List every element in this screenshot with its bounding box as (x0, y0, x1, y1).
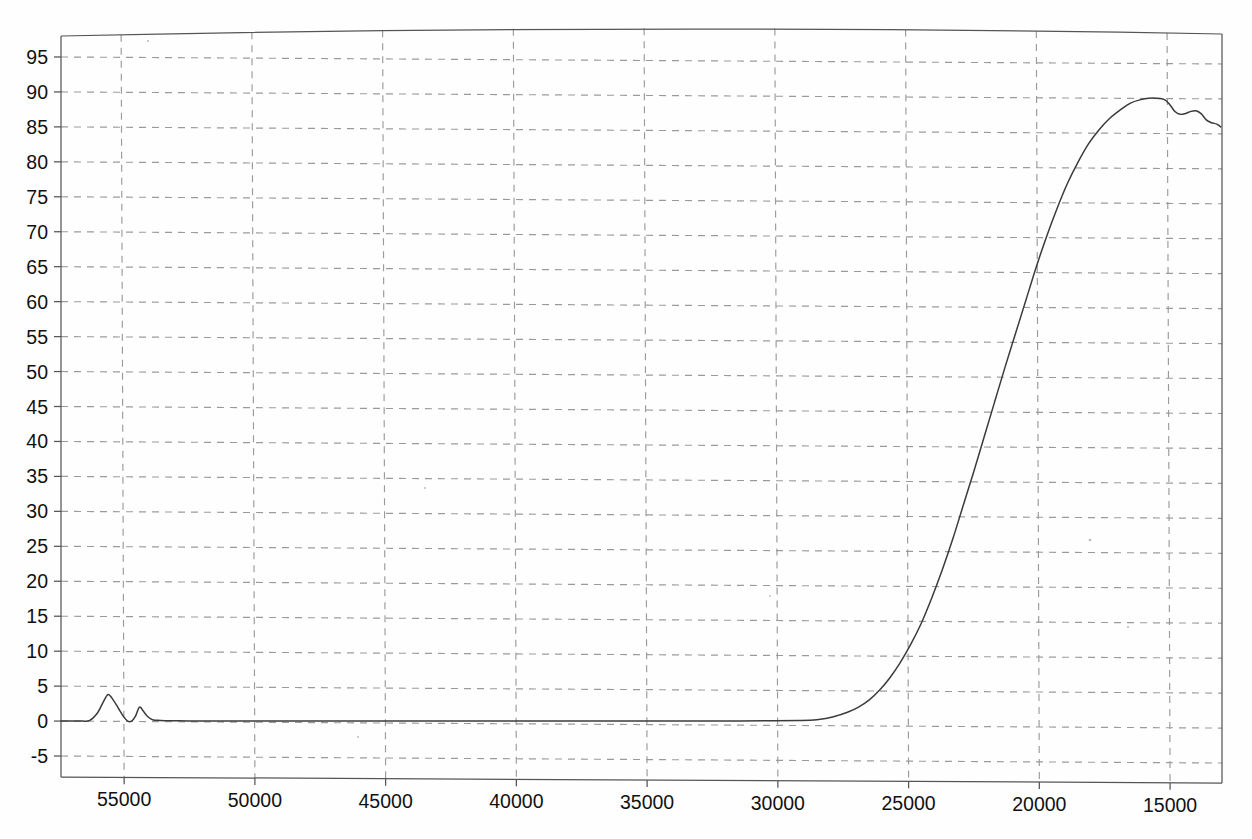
y-tick-label: 85 (26, 116, 48, 138)
x-tick-label: 25000 (881, 792, 935, 814)
y-tick-label: 30 (26, 500, 48, 522)
y-tick-label: 15 (26, 605, 48, 627)
y-tick-label: -5 (31, 745, 48, 767)
scan-speck (357, 736, 359, 738)
x-tick-label: 45000 (359, 790, 413, 812)
scan-speck (147, 40, 149, 42)
y-tick-label: 10 (26, 640, 48, 662)
x-tick-label: 20000 (1012, 793, 1066, 815)
y-tick-label: 55 (26, 326, 48, 348)
spectrum-chart: -505101520253035404550556065707580859095… (0, 0, 1252, 839)
x-tick-label: 35000 (620, 791, 674, 813)
y-tick-label: 5 (37, 675, 48, 697)
y-tick-label: 70 (26, 221, 48, 243)
y-tick-label: 80 (26, 151, 48, 173)
scan-speck (424, 487, 426, 489)
y-tick-label: 40 (26, 430, 48, 452)
chart-background (0, 0, 1252, 839)
chart-container: -505101520253035404550556065707580859095… (0, 0, 1252, 839)
y-tick-label: 95 (26, 46, 48, 68)
y-tick-label: 20 (26, 570, 48, 592)
y-tick-label: 45 (26, 396, 48, 418)
y-tick-label: 25 (26, 535, 48, 557)
x-tick-label: 15000 (1143, 794, 1197, 816)
scan-speck (1127, 626, 1129, 628)
x-tick-label: 30000 (751, 792, 805, 814)
scan-speck (1089, 539, 1092, 542)
y-axis-tick-labels: -505101520253035404550556065707580859095 (26, 46, 48, 767)
y-tick-label: 0 (37, 710, 48, 732)
y-tick-label: 35 (26, 465, 48, 487)
y-tick-label: 60 (26, 291, 48, 313)
x-tick-label: 40000 (489, 790, 543, 812)
scan-speck (769, 595, 771, 597)
x-tick-label: 55000 (97, 788, 151, 810)
y-tick-label: 90 (26, 81, 48, 103)
y-tick-label: 65 (26, 256, 48, 278)
y-tick-label: 75 (26, 186, 48, 208)
y-tick-label: 50 (26, 361, 48, 383)
x-tick-label: 50000 (228, 789, 282, 811)
y-axis-tickmarks (54, 57, 61, 756)
